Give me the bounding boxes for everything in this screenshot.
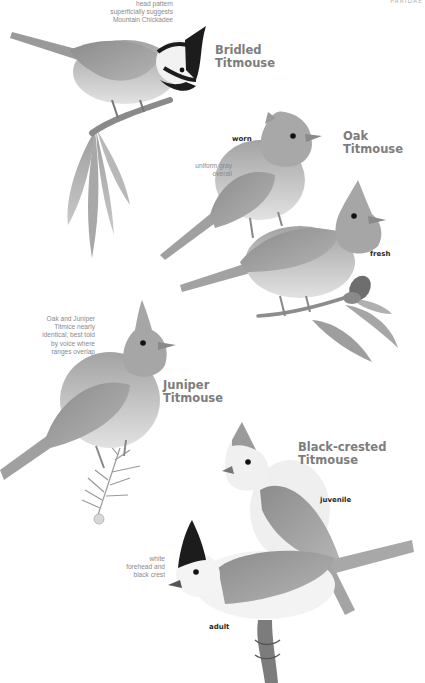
family-header-tag: PARIDAE bbox=[390, 0, 423, 4]
plumage-tag-adult: adult bbox=[209, 623, 229, 631]
plumage-tag-worn: worn bbox=[232, 135, 252, 143]
species-label-bridled-titmouse: Bridled Titmouse bbox=[215, 44, 275, 70]
plumage-tag-juvenile: juvenile bbox=[320, 496, 351, 504]
oak-note: uniform gray overall bbox=[132, 162, 232, 178]
bridled-titmouse-illustration bbox=[10, 26, 206, 258]
species-label-oak-titmouse: Oak Titmouse bbox=[343, 130, 403, 156]
black-crested-note: white forehead and black crest bbox=[85, 555, 165, 580]
species-label-black-crested-titmouse: Black-crested Titmouse bbox=[298, 441, 386, 467]
plumage-tag-fresh: fresh bbox=[370, 250, 390, 258]
bridled-note: head pattern superficially suggests Moun… bbox=[33, 0, 173, 25]
juniper-note: Oak and Juniper Titmice nearly identical… bbox=[0, 315, 95, 356]
species-label-juniper-titmouse: Juniper Titmouse bbox=[163, 379, 223, 405]
